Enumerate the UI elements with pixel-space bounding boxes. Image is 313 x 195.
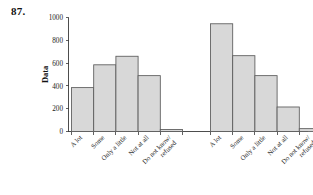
y-axis-tick-label: 1000 (49, 14, 64, 22)
bar[interactable] (211, 24, 233, 132)
bar[interactable] (233, 56, 255, 132)
bar[interactable] (255, 76, 277, 132)
y-axis-tick-label: 800 (52, 37, 63, 45)
bar-group-1: A lotSomeOnly a littleNot at allDo not k… (69, 56, 183, 170)
x-axis-tick-label: Some (229, 134, 245, 150)
y-axis-tick-label: 200 (52, 105, 63, 113)
bar-chart-figure: 02004006008001000DataA lotSomeOnly a lit… (0, 0, 313, 195)
y-axis-tick-label: 600 (52, 60, 63, 68)
y-axis-tick-label: 0 (59, 128, 63, 136)
bar-group-2: A lotSomeOnly a littleNot at allDo not k… (208, 24, 313, 171)
y-axis-tick-label: 400 (52, 83, 63, 91)
x-axis-tick-label: A lot (69, 134, 84, 149)
bar[interactable] (299, 129, 313, 132)
bar[interactable] (72, 88, 94, 132)
y-axis-title: Data (41, 65, 50, 83)
x-axis-tick-label: A lot (208, 134, 223, 149)
bar[interactable] (116, 56, 138, 131)
x-axis-tick-label: Some (90, 134, 106, 150)
bar[interactable] (94, 65, 116, 132)
bar[interactable] (277, 107, 299, 132)
bar[interactable] (160, 129, 182, 131)
bar[interactable] (138, 76, 160, 132)
